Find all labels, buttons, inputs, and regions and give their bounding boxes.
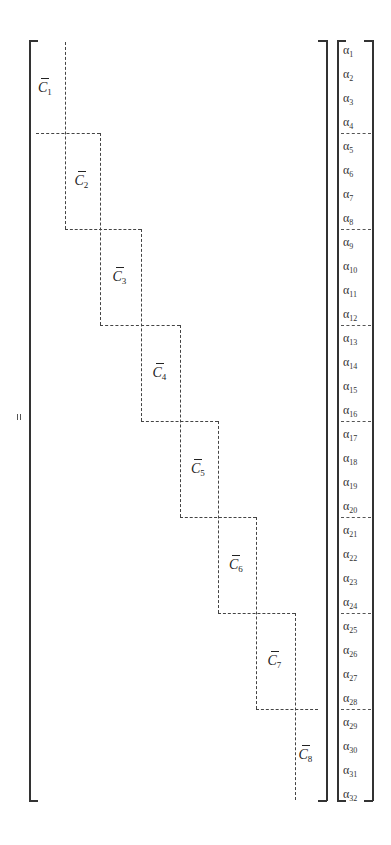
alpha-entry: α9 xyxy=(343,235,373,254)
alpha-entry: α4 xyxy=(343,115,373,134)
vector-group-separator xyxy=(341,229,371,230)
alpha-entry: α8 xyxy=(343,211,373,230)
alpha-entry: α21 xyxy=(343,523,373,542)
alpha-entry: α3 xyxy=(343,91,373,110)
block-label-c3: C3 xyxy=(113,270,127,288)
alpha-entry: α11 xyxy=(343,283,373,302)
block-divider-horizontal xyxy=(100,325,180,326)
block-divider-horizontal xyxy=(141,421,218,422)
alpha-entry: α31 xyxy=(343,763,373,782)
alpha-entry: α15 xyxy=(343,379,373,398)
alpha-entry: α12 xyxy=(343,307,373,326)
alpha-entry: α28 xyxy=(343,691,373,710)
block-divider-vertical xyxy=(295,613,296,800)
alpha-entry: α27 xyxy=(343,667,373,686)
block-label-c2: C2 xyxy=(75,174,89,192)
block-divider-horizontal xyxy=(36,133,100,134)
alpha-entry: α1 xyxy=(343,43,373,62)
alpha-entry: α22 xyxy=(343,547,373,566)
alpha-entry: α7 xyxy=(343,187,373,206)
block-label-c7: C7 xyxy=(268,654,282,672)
alpha-entry: α19 xyxy=(343,475,373,494)
vector-group-separator xyxy=(341,517,371,518)
block-label-c6: C6 xyxy=(229,558,243,576)
alpha-entry: α13 xyxy=(343,331,373,350)
block-label-c5: C5 xyxy=(191,462,205,480)
equals-sign xyxy=(17,414,22,420)
vector-group-separator xyxy=(341,325,371,326)
vector-group-separator xyxy=(341,133,371,134)
alpha-entry: α30 xyxy=(343,739,373,758)
block-divider-horizontal xyxy=(180,517,256,518)
alpha-entry: α24 xyxy=(343,595,373,614)
alpha-entry: α32 xyxy=(343,787,373,806)
block-divider-horizontal xyxy=(256,709,318,710)
alpha-entry: α5 xyxy=(343,139,373,158)
alpha-entry: α26 xyxy=(343,643,373,662)
alpha-entry: α29 xyxy=(343,715,373,734)
block-label-c1: C1 xyxy=(38,81,52,99)
block-divider-horizontal xyxy=(218,613,295,614)
alpha-entry: α6 xyxy=(343,163,373,182)
block-label-c8: C8 xyxy=(299,748,313,766)
alpha-entry: α20 xyxy=(343,499,373,518)
block-divider-horizontal xyxy=(65,229,141,230)
block-label-c4: C4 xyxy=(153,366,167,384)
alpha-entry: α23 xyxy=(343,571,373,590)
alpha-entry: α2 xyxy=(343,67,373,86)
block-divider-vertical xyxy=(65,42,66,229)
alpha-entry: α16 xyxy=(343,403,373,422)
alpha-entry: α17 xyxy=(343,427,373,446)
vector-group-separator xyxy=(341,709,371,710)
alpha-entry: α14 xyxy=(343,355,373,374)
vector-group-separator xyxy=(341,613,371,614)
alpha-entry: α25 xyxy=(343,619,373,638)
vector-group-separator xyxy=(341,421,371,422)
alpha-entry: α10 xyxy=(343,259,373,278)
alpha-entry: α18 xyxy=(343,451,373,470)
